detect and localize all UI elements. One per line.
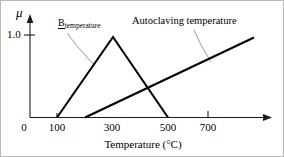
x-tick-label-500: 500 <box>153 122 183 133</box>
x-tick-label-0: 0 <box>9 122 39 133</box>
series-b-temperature-label-base: B <box>58 18 65 29</box>
x-tick-label-100: 100 <box>42 122 72 133</box>
series-autoclaving-curve <box>85 38 254 118</box>
y-axis-arrow-icon <box>27 14 34 23</box>
x-tick-label-700: 700 <box>193 122 223 133</box>
series-b-temperature-label-subscript: temperature <box>65 21 101 30</box>
autoclaving-leader-line <box>194 30 211 62</box>
x-axis-title: Temperature (°C) <box>1 139 284 150</box>
series-autoclaving-label: Autoclaving temperature <box>132 16 237 27</box>
y-tick-label-1.0: 1.0 <box>7 29 21 40</box>
x-axis-arrow-icon <box>263 114 272 121</box>
x-tick-label-300: 300 <box>97 122 127 133</box>
series-b-temperature-label: Btemperature <box>58 18 100 29</box>
y-axis-symbol: μ <box>16 6 23 19</box>
b-temperature-leader-line <box>67 33 94 65</box>
membership-function-chart: μ 1.0 0 100 300 500 700 Temperature (°C)… <box>0 0 284 157</box>
